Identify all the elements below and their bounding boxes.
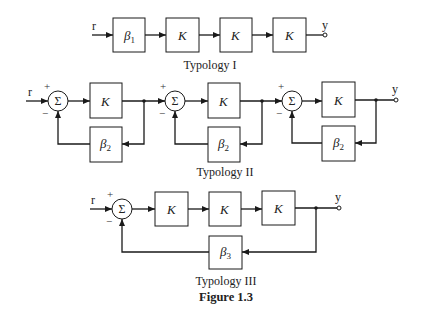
output-terminal bbox=[394, 98, 398, 102]
output-terminal bbox=[323, 33, 327, 37]
block-k-label: K bbox=[218, 94, 229, 109]
typology-2-title: Typology II bbox=[197, 165, 254, 179]
block-k-label: K bbox=[284, 28, 295, 43]
input-signal-r: r bbox=[91, 193, 95, 207]
block-k-label: K bbox=[166, 202, 177, 217]
block-k-label: K bbox=[100, 94, 111, 109]
block-k-label: K bbox=[333, 93, 344, 108]
minus-sign: − bbox=[159, 107, 165, 119]
minus-sign: − bbox=[106, 215, 112, 227]
typology-3-title: Typology III bbox=[196, 274, 257, 288]
sum-symbol: Σ bbox=[119, 202, 126, 216]
figure-caption: Figure 1.3 bbox=[199, 290, 253, 304]
block-k-label: K bbox=[219, 202, 230, 217]
output-terminal bbox=[337, 206, 341, 210]
sum-symbol: Σ bbox=[55, 94, 62, 108]
typology-1: r β1 K K K y Typology I bbox=[92, 18, 328, 72]
input-signal-r: r bbox=[92, 19, 96, 33]
feedback-path bbox=[240, 101, 262, 144]
minus-sign: − bbox=[42, 107, 48, 119]
feedback-path bbox=[355, 100, 376, 143]
feedback-path bbox=[122, 101, 144, 144]
typology-1-title: Typology I bbox=[184, 58, 237, 72]
feedback-path bbox=[292, 111, 322, 143]
plus-sign: + bbox=[278, 80, 284, 92]
feedback-path bbox=[58, 111, 90, 144]
block-k-label: K bbox=[177, 28, 188, 43]
output-signal-y: y bbox=[322, 18, 328, 32]
input-signal-r: r bbox=[28, 85, 32, 99]
output-signal-y: y bbox=[392, 82, 398, 96]
sum-symbol: Σ bbox=[289, 94, 296, 108]
output-signal-y: y bbox=[335, 190, 341, 204]
typology-2: r Σ + − K β2 Σ + − K β2 Σ + − bbox=[26, 80, 398, 179]
plus-sign: + bbox=[44, 80, 50, 92]
block-diagram: r β1 K K K y Typology I r Σ + − K β2 bbox=[0, 0, 421, 310]
minus-sign: − bbox=[276, 107, 282, 119]
block-k-label: K bbox=[273, 201, 284, 216]
block-k-label: K bbox=[230, 28, 241, 43]
plus-sign: + bbox=[160, 80, 166, 92]
typology-3: r Σ + − K K K y β3 Typology III bbox=[90, 188, 341, 288]
plus-sign: + bbox=[107, 188, 113, 200]
sum-symbol: Σ bbox=[172, 94, 179, 108]
feedback-path bbox=[175, 111, 208, 144]
